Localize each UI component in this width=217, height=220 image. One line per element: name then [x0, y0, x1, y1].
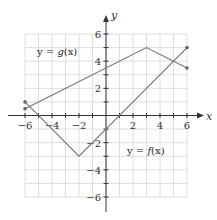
y-axis-arrow-icon — [103, 15, 109, 22]
endpoint-marker — [185, 66, 189, 70]
x-tick-label: 2 — [130, 120, 136, 131]
endpoint-marker — [23, 100, 27, 104]
g-function-label: y = g(x) — [36, 46, 77, 57]
x-tick-label: 6 — [184, 120, 190, 131]
endpoint-marker — [185, 46, 189, 50]
x-axis-arrow-icon — [197, 113, 204, 119]
x-tick-label: −6 — [18, 120, 33, 131]
y-tick-label: 6 — [95, 29, 101, 40]
y-tick-label: 2 — [95, 83, 101, 94]
y-tick-label: −4 — [86, 165, 101, 176]
y-tick-label: 4 — [95, 56, 101, 67]
x-axis-label: x — [206, 110, 213, 123]
x-tick-label: 4 — [157, 120, 163, 131]
axes — [8, 15, 204, 212]
f-function-label: y = f(x) — [126, 145, 165, 156]
x-tick-label: −2 — [72, 120, 87, 131]
y-tick-label: −6 — [86, 192, 101, 203]
y-axis-label: y — [110, 9, 118, 22]
endpoint-marker — [23, 107, 27, 111]
function-graph: −6−4−2246642−2−4−6 x y y = g(x) y = f(x) — [0, 0, 217, 220]
